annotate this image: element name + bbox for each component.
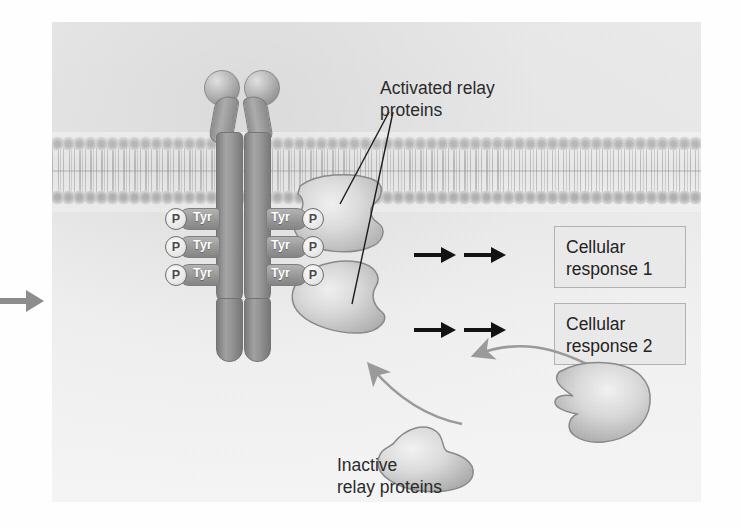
cellular-response-box-1[interactable]: Cellular response 1 [554, 226, 686, 288]
curved-arrow-icon-1 [372, 368, 462, 424]
arrow-right-icon [464, 244, 508, 266]
left-entry-arrow [0, 284, 48, 322]
tyr-label-right-1: Tyr [271, 210, 290, 224]
cellular-response-1-line2: response 1 [566, 258, 685, 280]
receptor-tail-right [244, 298, 271, 362]
leader-lines [292, 108, 412, 328]
pathway-arrow-row1-a [414, 244, 458, 270]
activated-relay-label: Activated relay proteins [380, 77, 495, 121]
phosphate-left-3: P [165, 264, 187, 286]
pointer-line-icon-1 [340, 112, 389, 204]
diagram-panel: Tyr Tyr Tyr Tyr Tyr Tyr P P P P P P Acti… [52, 22, 701, 502]
tyr-label-right-3: Tyr [271, 266, 290, 280]
phosphate-left-2: P [165, 236, 187, 258]
activated-relay-label-line1: Activated relay [380, 77, 495, 99]
pointer-line-icon-2 [352, 112, 393, 304]
inactive-relay-label-line1: Inactive [337, 454, 442, 476]
diagram-canvas: Tyr Tyr Tyr Tyr Tyr Tyr P P P P P P Acti… [0, 0, 741, 528]
inactive-relay-label-line2: relay proteins [337, 476, 442, 498]
arrow-right-icon [414, 244, 458, 266]
activated-relay-label-line2: proteins [380, 99, 495, 121]
phosphate-left-1: P [165, 208, 187, 230]
pathway-arrow-row1-b [464, 244, 508, 270]
tyr-label-left-3: Tyr [193, 266, 212, 280]
cellular-response-1-line1: Cellular [566, 236, 685, 258]
inactive-relay-protein-2 [537, 358, 657, 454]
tyr-label-right-2: Tyr [271, 238, 290, 252]
inactive-relay-label: Inactive relay proteins [337, 454, 442, 498]
arrow-right-icon [0, 284, 48, 318]
receptor-transmembrane-left [216, 132, 243, 304]
tyr-label-left-2: Tyr [193, 238, 212, 252]
tyr-label-left-1: Tyr [193, 210, 212, 224]
receptor-tail-left [216, 298, 243, 362]
